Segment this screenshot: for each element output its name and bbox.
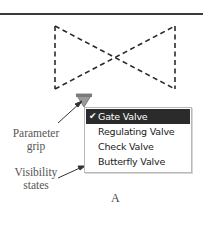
menu-item-check-valve[interactable]: Check Valve [85,139,191,154]
checkmark-icon: ✔ [89,109,96,124]
parameter-grip-label: Parameter grip [5,127,67,153]
menu-item-gate-valve[interactable]: ✔ Gate Valve [86,109,190,124]
menu-item-label: Gate Valve [98,111,147,122]
menu-item-label: Check Valve [98,141,154,152]
visibility-states-label-line2: states [5,179,67,192]
visibility-states-label: Visibility states [5,166,67,192]
figure-label: A [111,191,120,206]
menu-item-label: Butterfly Valve [98,156,165,167]
menu-item-regulating-valve[interactable]: Regulating Valve [85,124,191,139]
visibility-states-label-line1: Visibility [5,166,67,179]
valve-symbol-icon [55,26,175,89]
grip-leader-arrow-icon [58,101,82,123]
parameter-grip-label-line2: grip [5,140,67,153]
menu-item-butterfly-valve[interactable]: Butterfly Valve [85,154,191,169]
parameter-grip-label-line1: Parameter [5,127,67,140]
menu-item-label: Regulating Valve [98,126,174,137]
visibility-states-menu: ✔ Gate Valve Regulating Valve Check Valv… [84,107,192,173]
